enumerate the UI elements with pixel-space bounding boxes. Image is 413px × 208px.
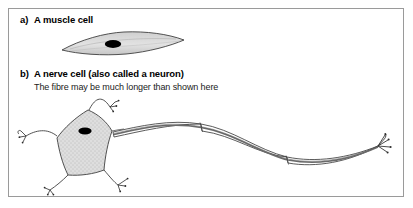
- panel-b-label: b) A nerve cell (also called a neuron) T…: [20, 68, 218, 92]
- figure-frame: [8, 8, 404, 197]
- panel-b-title: A nerve cell (also called a neuron): [34, 68, 184, 79]
- panel-a-marker: a): [20, 14, 34, 25]
- figure-root: a) A muscle cell b) A nerve cell (also c…: [0, 0, 413, 208]
- panel-b-marker: b): [20, 68, 34, 79]
- panel-b-subtitle: The fibre may be much longer than shown …: [34, 82, 218, 92]
- panel-b-heading-row: b) A nerve cell (also called a neuron): [20, 68, 218, 79]
- panel-a-label: a) A muscle cell: [20, 14, 93, 25]
- panel-a-title: A muscle cell: [34, 14, 93, 25]
- panel-a-heading-row: a) A muscle cell: [20, 14, 93, 25]
